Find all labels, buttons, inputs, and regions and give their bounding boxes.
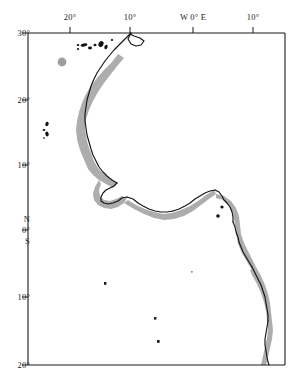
record-point-2	[154, 317, 156, 320]
circle-marker-madeira	[58, 58, 67, 67]
record-point-4	[191, 271, 193, 273]
lon-label-10e: 10°	[247, 12, 260, 22]
record-point-3	[157, 340, 160, 343]
lat-label-equator-value: 0°	[0, 225, 30, 236]
lat-label-20s: 20°	[0, 360, 30, 370]
lat-label-10n: 10°	[0, 160, 30, 170]
lat-label-equator: N 0° S	[0, 214, 30, 247]
lat-label-10s: 10°	[0, 292, 30, 302]
lon-label-10w: 10°	[124, 12, 137, 22]
map-canvas	[0, 0, 299, 383]
map-background	[0, 0, 299, 383]
lat-label-20n: 20°	[0, 95, 30, 105]
lon-label-prime-meridian: W 0° E	[180, 12, 206, 22]
distribution-map-figure: 20° 10° W 0° E 10° 30° 20° 10° N 0° S 10…	[0, 0, 299, 383]
lat-label-equator-south: S	[0, 236, 30, 247]
record-point-1	[104, 282, 106, 285]
lat-label-30n: 30°	[0, 28, 30, 38]
lat-label-equator-north: N	[0, 214, 30, 225]
lon-label-20w: 20°	[64, 12, 77, 22]
